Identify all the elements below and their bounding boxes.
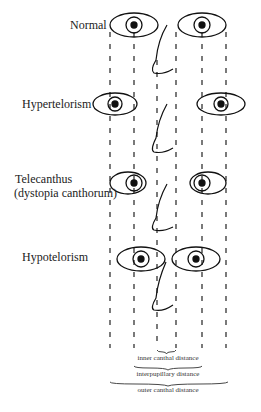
nose: [152, 25, 173, 74]
hypotelorism-eyes: [117, 247, 220, 271]
hypertelorism-eyes: [93, 93, 245, 115]
eye-spacing-diagram: [0, 0, 261, 412]
row-label-telecanthus-sub: (dystopia canthorum): [14, 187, 117, 200]
nose: [152, 184, 173, 231]
row-label-telecanthus: Telecanthus: [15, 173, 72, 186]
normal-eyes: [110, 13, 226, 37]
telecanthus-eyes: [110, 172, 226, 194]
row-label-hypotelorism: Hypotelorism: [22, 251, 88, 264]
interpupillary-distance-label: interpupillary distance: [118, 370, 218, 378]
nose: [152, 104, 173, 153]
row-label-normal: Normal: [70, 19, 107, 32]
inner-canthal-distance-label: inner canthal distance: [118, 354, 218, 362]
outer-canthal-distance-label: outer canthal distance: [118, 386, 218, 394]
reference-dashed-lines: [110, 32, 226, 348]
row-label-hypertelorism: Hypertelorism: [22, 98, 91, 111]
